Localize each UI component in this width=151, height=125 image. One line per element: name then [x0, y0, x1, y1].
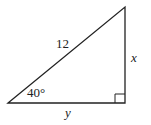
right-angle-marker — [115, 94, 125, 103]
triangle-diagram: 12 x 40° y — [0, 0, 151, 125]
triangle-shape — [8, 7, 125, 103]
angle-label: 40° — [27, 85, 45, 100]
vertical-side-label: x — [130, 50, 137, 65]
horizontal-side-label: y — [63, 105, 71, 120]
hypotenuse-label: 12 — [56, 36, 69, 51]
